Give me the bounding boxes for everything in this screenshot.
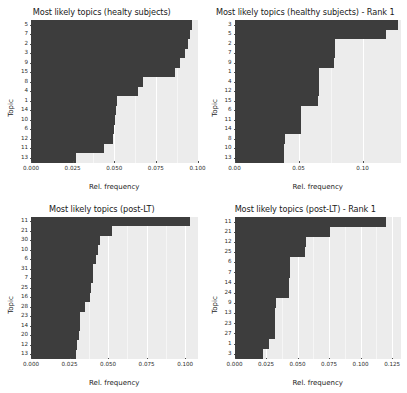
- bar-row: [235, 30, 402, 40]
- bar-row: [235, 39, 402, 49]
- y-tick-label: 15: [216, 98, 234, 104]
- y-tick-label: 3: [216, 22, 234, 28]
- bar: [235, 96, 319, 106]
- bar: [235, 39, 336, 49]
- y-tick-label: 8: [12, 79, 30, 85]
- panel-healthy-subjects: Most likely topics (healty subjects) Top…: [0, 0, 204, 197]
- x-tick-label: 0.000: [226, 361, 242, 367]
- x-tick-mark: [70, 358, 71, 360]
- x-tick-mark: [185, 358, 186, 360]
- bar-row: [235, 77, 402, 87]
- bar-row: [235, 96, 402, 106]
- y-tick-label: 10: [216, 145, 234, 151]
- y-tick-label: 13: [12, 155, 30, 161]
- bar-row: [235, 257, 402, 267]
- bar: [31, 115, 115, 125]
- x-axis-label: Rel. frequency: [31, 379, 198, 387]
- bar-row: [31, 87, 198, 97]
- bar: [31, 321, 80, 331]
- plot-area: [31, 20, 198, 163]
- y-tick-label: 11: [12, 218, 30, 224]
- panel-post-lt: Most likely topics (post-LT) Topic 11213…: [0, 197, 204, 393]
- y-tick-label: 10: [12, 247, 30, 253]
- y-tick-label: 10: [12, 117, 30, 123]
- x-tick-mark: [329, 358, 330, 360]
- bar-row: [31, 125, 198, 135]
- bar-row: [235, 134, 402, 144]
- bar-row: [235, 68, 402, 78]
- bar-row: [31, 350, 198, 360]
- x-tick-label: 0.125: [384, 361, 400, 367]
- x-tick-mark: [31, 358, 32, 360]
- bar-row: [31, 274, 198, 284]
- x-tick-mark: [156, 161, 157, 163]
- y-tick-label: 28: [12, 304, 30, 310]
- bar: [235, 227, 331, 237]
- y-tick-label: 14: [216, 126, 234, 132]
- bar: [31, 144, 104, 154]
- x-tick-label: 0.05: [292, 165, 304, 171]
- x-tick-mark: [266, 358, 267, 360]
- bar: [31, 39, 188, 49]
- bar: [31, 87, 138, 97]
- y-tick-label: 14: [12, 323, 30, 329]
- bar: [31, 331, 79, 341]
- y-tick-label: 30: [12, 237, 30, 243]
- bar-row: [31, 245, 198, 255]
- bar: [31, 245, 98, 255]
- y-tick-label: 5: [216, 31, 234, 37]
- y-tick-label: 1: [12, 98, 30, 104]
- bar-series: [235, 217, 402, 360]
- bar-row: [235, 227, 402, 237]
- bar-row: [31, 30, 198, 40]
- y-tick-label: 14: [216, 280, 234, 286]
- x-tick-label: 0.10: [356, 165, 368, 171]
- y-tick-label: 11: [12, 145, 30, 151]
- panel-title: Most likely topics (healthy subjects) - …: [204, 7, 407, 17]
- x-tick-label: 0.075: [321, 361, 337, 367]
- bar: [235, 134, 286, 144]
- bar-row: [235, 247, 402, 257]
- bar-row: [235, 349, 402, 359]
- bar-row: [235, 106, 402, 116]
- bar-row: [31, 20, 198, 30]
- y-tick-label: 1: [216, 341, 234, 347]
- y-tick-label: 16: [12, 294, 30, 300]
- bar-row: [31, 77, 198, 87]
- y-axis-ticks: 352791412156111481013: [216, 20, 234, 163]
- y-tick-label: 7: [12, 31, 30, 37]
- y-tick-label: 6: [12, 256, 30, 262]
- bar-row: [31, 217, 198, 227]
- bar: [235, 153, 285, 163]
- bar: [235, 328, 276, 338]
- bar-row: [31, 144, 198, 154]
- x-tick-label: 0.025: [258, 361, 274, 367]
- bar-row: [31, 255, 198, 265]
- bar: [235, 298, 277, 308]
- y-tick-label: 11: [216, 117, 234, 123]
- y-tick-label: 2: [216, 41, 234, 47]
- y-tick-label: 11: [216, 219, 234, 225]
- bar: [31, 106, 116, 116]
- bar: [235, 77, 320, 87]
- x-tick-mark: [31, 161, 32, 163]
- bar: [235, 68, 320, 78]
- x-tick-mark: [361, 358, 362, 360]
- bar-row: [235, 217, 402, 227]
- bar: [235, 49, 336, 59]
- y-tick-label: 4: [216, 79, 234, 85]
- y-tick-label: 12: [216, 239, 234, 245]
- bar-row: [31, 39, 198, 49]
- plot-wrapper: Topic 572391584114106121113 0.0000.0250.…: [0, 20, 204, 197]
- bar: [235, 20, 398, 30]
- bar: [235, 58, 335, 68]
- y-tick-label: 24: [216, 290, 234, 296]
- y-tick-label: 1: [216, 69, 234, 75]
- panel-title: Most likely topics (post-LT) - Rank 1: [204, 204, 407, 214]
- x-axis-ticks: 0.0000.0250.0500.0750.100: [31, 163, 198, 177]
- y-tick-label: 8: [216, 136, 234, 142]
- bar-row: [235, 308, 402, 318]
- y-tick-label: 12: [216, 88, 234, 94]
- x-tick-mark: [298, 358, 299, 360]
- bar: [31, 30, 190, 40]
